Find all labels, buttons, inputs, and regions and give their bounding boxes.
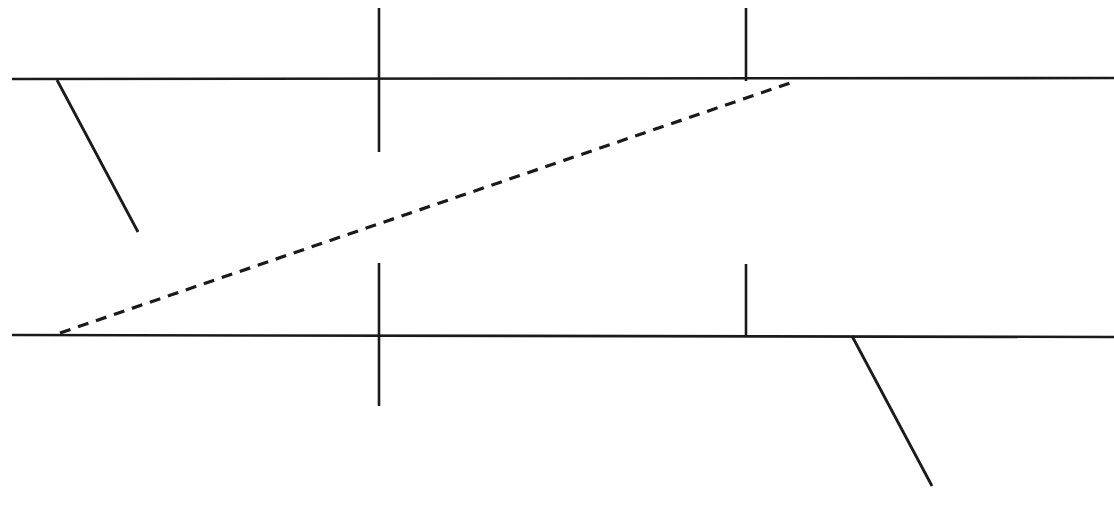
lower-right-branch-line: [852, 336, 932, 486]
diagram-svg: [0, 0, 1114, 506]
dashed-transition-path: [60, 83, 790, 333]
diagram-canvas: [0, 0, 1114, 506]
upper-boundary-line: [12, 78, 1114, 79]
upper-left-branch-line: [57, 80, 138, 232]
lower-boundary-line: [12, 335, 1114, 337]
